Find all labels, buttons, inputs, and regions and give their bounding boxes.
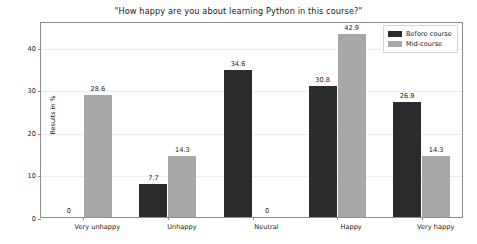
x-axis-tick-mark [422, 217, 423, 220]
bar-value-label: 0 [247, 207, 287, 215]
bar-value-label: 0 [49, 207, 89, 215]
x-axis-tick-label: Very happy [391, 223, 477, 231]
x-axis-tick-label: Happy [306, 223, 396, 231]
y-axis-tick-mark [38, 219, 41, 220]
bar-value-label: 7.7 [133, 174, 173, 182]
bar-before[interactable] [309, 86, 337, 217]
y-axis-tick-label: 40 [28, 45, 36, 53]
x-axis-tick-mark [83, 217, 84, 220]
x-axis-tick-mark [253, 217, 254, 220]
x-axis-tick-mark [337, 217, 338, 220]
x-axis-tick-label: Neutral [222, 223, 312, 231]
y-axis-tick-label: 10 [28, 172, 36, 180]
bar-value-label: 26.9 [387, 92, 427, 100]
bar-mid[interactable] [422, 156, 450, 217]
y-axis-tick-label: 30 [28, 87, 36, 95]
bar-mid[interactable] [338, 34, 366, 217]
bar-value-label: 28.6 [78, 85, 118, 93]
bar-group: 7.714.3Unhappy [139, 23, 196, 217]
bar-value-label: 30.8 [303, 76, 343, 84]
y-axis-tick-label: 0 [32, 215, 36, 223]
y-axis-tick-label: 20 [28, 130, 36, 138]
legend-swatch-icon [388, 31, 402, 37]
bar-before[interactable] [224, 70, 252, 217]
x-axis-tick-label: Very unhappy [52, 223, 142, 231]
x-axis-tick-label: Unhappy [137, 223, 227, 231]
bar-mid[interactable] [84, 95, 112, 217]
chart-legend: Before courseMid-course [383, 25, 458, 53]
bar-value-label: 34.6 [218, 60, 258, 68]
chart-title: "How happy are you about learning Python… [0, 6, 477, 16]
bar-value-label: 42.9 [332, 24, 372, 32]
bar-group: 34.60Neutral [224, 23, 281, 217]
bar-mid[interactable] [168, 156, 196, 217]
legend-label: Before course [406, 30, 452, 38]
bar-before[interactable] [393, 102, 421, 217]
bar-group: 30.842.9Happy [309, 23, 366, 217]
legend-label: Mid-course [406, 40, 442, 48]
bar-before[interactable] [139, 184, 167, 217]
x-axis-tick-mark [168, 217, 169, 220]
chart-figure: "How happy are you about learning Python… [0, 0, 477, 244]
bar-value-label: 14.3 [416, 146, 456, 154]
legend-item[interactable]: Mid-course [388, 39, 452, 49]
bar-group: 028.6Very unhappy [55, 23, 112, 217]
legend-item[interactable]: Before course [388, 29, 452, 39]
legend-swatch-icon [388, 41, 402, 47]
bar-value-label: 14.3 [162, 146, 202, 154]
